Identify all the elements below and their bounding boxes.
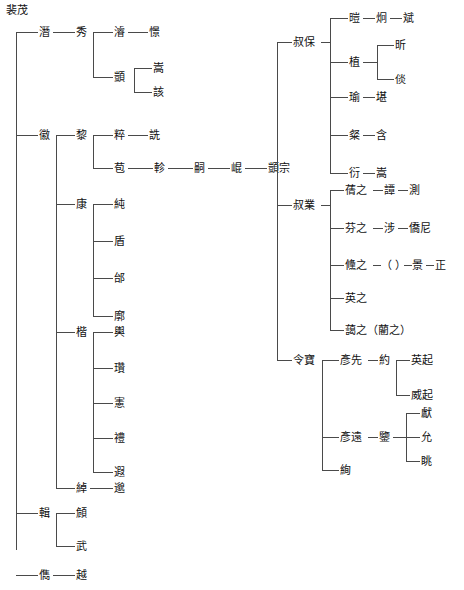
connector-jian-yun [406, 437, 420, 438]
node-kai2: 暟 [349, 12, 360, 25]
connector-she-qiaoni [398, 228, 408, 229]
connector-qian-xiu [53, 32, 75, 33]
connector-jian-tiao [406, 461, 420, 462]
connector-jian-stem [393, 437, 406, 438]
node-ce: 測 [409, 184, 420, 197]
node-root: 裴茂 [6, 4, 28, 17]
connector-kang-tai [93, 278, 113, 279]
connector-kang-dun [93, 241, 113, 242]
node-jian: 鑒 [379, 431, 390, 444]
connector-yue2-yingqi [396, 360, 410, 361]
node-wu: 武 [76, 540, 87, 553]
node-kan: 堪 [376, 91, 387, 104]
node-bao: 苞 [114, 162, 125, 175]
node-shubao: 叔保 [293, 36, 315, 49]
node-song-2: 嵩 [376, 167, 387, 180]
node-jing2: 景 [412, 259, 423, 272]
connector-li-bao [93, 168, 113, 169]
node-yu: 瑜 [349, 91, 360, 104]
node-dun: 盾 [114, 235, 125, 248]
node-kuo: 廓 [114, 310, 125, 323]
connector-right-lingbao [277, 360, 292, 361]
connector-kai-xian [93, 403, 113, 404]
node-qianzhi: 蒨之 [345, 184, 367, 197]
node-jing: 憬 [149, 26, 160, 39]
node-zheng: 正 [435, 259, 446, 272]
node-cui: 粹 [114, 129, 125, 142]
connector-xiu-jun [93, 32, 113, 33]
node-yue2: 約 [379, 354, 390, 367]
connector-lingbao-yanxian [322, 360, 339, 361]
node-shuzhi: 儵之 [345, 259, 367, 272]
node-kang: 康 [76, 198, 87, 211]
node-li: 黎 [76, 129, 87, 142]
connector-kai-zan [93, 368, 113, 369]
node-lingbao: 令寶 [293, 354, 315, 367]
connector-kai-li2 [93, 438, 113, 439]
node-chun: 純 [114, 198, 125, 211]
node-kai: 楷 [76, 326, 87, 339]
connector-shuye-shuzhi [330, 265, 344, 266]
node-zan: 瓚 [114, 362, 125, 375]
spine-shuye [330, 190, 331, 330]
node-gai: 該 [153, 86, 164, 99]
node-shuye: 叔業 [293, 199, 315, 212]
node-han: 含 [376, 129, 387, 142]
connector-shubao-stem [321, 42, 331, 43]
connector-shubao-can [330, 135, 348, 136]
node-weiqi: 威起 [411, 389, 433, 402]
connector-root-ji [16, 513, 38, 514]
spine-li [93, 135, 94, 168]
node-tai: 邰 [114, 272, 125, 285]
connector-zhen-si [168, 168, 193, 169]
node-xiu: 秀 [76, 26, 87, 39]
node-zhi: 植 [349, 56, 360, 69]
connector-li-cui [93, 135, 113, 136]
node-hui: 徽 [39, 129, 50, 142]
connector-kai2-jiong [363, 18, 375, 19]
connector-tan2-ce [398, 190, 408, 191]
connector-fenzhi-she [373, 228, 383, 229]
connector-yan-song2 [363, 173, 375, 174]
connector-kang-kuo [93, 316, 113, 317]
connector-zhi-stem [363, 62, 377, 63]
node-tan2: 譚 [384, 184, 395, 197]
spine-zhi [377, 45, 378, 79]
connector-shuye-aizhi [330, 330, 344, 331]
node-yan: 衍 [349, 167, 360, 180]
spine-yue2 [396, 360, 397, 395]
connector-blank-jing [404, 265, 412, 266]
connector-can-han [363, 135, 375, 136]
node-xuan: 絢 [340, 464, 351, 477]
connector-yue2-weiqi [396, 395, 410, 396]
node-yanyuan: 彥遠 [340, 431, 362, 444]
spine-hui [56, 135, 57, 488]
connector-ji-wei [56, 513, 75, 514]
node-xian2: 獻 [421, 407, 432, 420]
node-yue: 越 [76, 569, 87, 582]
connector-yanyuan-jian [368, 437, 378, 438]
connector-shuye-fenzhi [330, 228, 344, 229]
node-she: 涉 [384, 222, 395, 235]
connector-shuye-yingzhi [330, 298, 344, 299]
node-kun: 崐 [231, 162, 242, 175]
connector-kai-yu2 [93, 332, 113, 333]
connector-yanxian-yue2 [368, 360, 378, 361]
connector-shubao-zhi [330, 62, 348, 63]
node-can: 粲 [349, 129, 360, 142]
connector-root-hui [16, 135, 38, 136]
connector-hui-kai [56, 332, 75, 333]
connector-qianzhi-tan2 [373, 190, 383, 191]
connector-hui-kang [56, 204, 75, 205]
node-zhen: 軫 [154, 162, 165, 175]
connector-hui-li [56, 135, 75, 136]
node-jun2: 儁 [39, 569, 50, 582]
connector-zhi-xin [377, 45, 394, 46]
node-tiao: 眺 [421, 455, 432, 468]
node-qian: 潛 [39, 26, 50, 39]
connector-hui-chuo [56, 488, 75, 489]
connector-yi-song [134, 68, 152, 69]
connector-xiu-yi [93, 77, 113, 78]
connector-shubao-yan [330, 173, 348, 174]
connector-jun-jing [128, 32, 148, 33]
